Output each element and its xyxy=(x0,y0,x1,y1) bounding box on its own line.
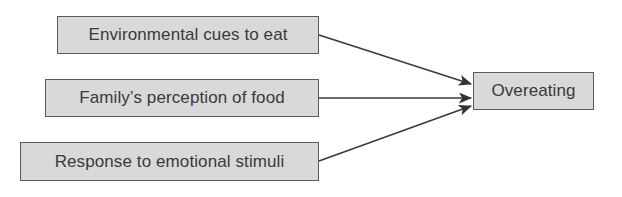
node-label: Overeating xyxy=(491,81,575,101)
node-label: Family’s perception of food xyxy=(79,88,285,108)
node-family-perception: Family’s perception of food xyxy=(45,79,319,117)
node-overeating: Overeating xyxy=(473,72,594,110)
node-emotional-response: Response to emotional stimuli xyxy=(20,142,319,181)
arrow-emotional-to-overeating xyxy=(319,106,471,161)
arrow-env-to-overeating xyxy=(319,35,471,84)
node-environmental-cues: Environmental cues to eat xyxy=(57,16,319,54)
node-label: Environmental cues to eat xyxy=(88,25,287,45)
node-label: Response to emotional stimuli xyxy=(55,152,285,172)
